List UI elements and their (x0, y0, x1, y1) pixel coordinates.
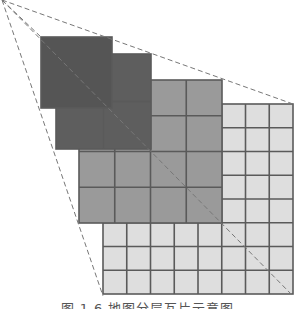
pyramid-levels (41, 37, 293, 294)
figure-caption: 图 1.6 地图分层瓦片示意图 (0, 299, 295, 309)
level-0 (41, 37, 112, 108)
tile-level-boundary (41, 37, 112, 108)
tile-pyramid-diagram (0, 0, 295, 309)
